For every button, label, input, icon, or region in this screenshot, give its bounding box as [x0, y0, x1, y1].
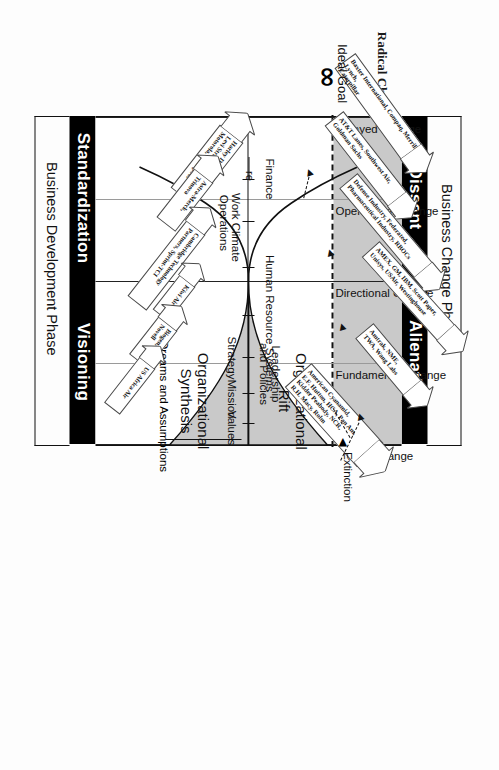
stage-finance: Finance	[263, 151, 275, 207]
business-change-cycle-figure: Figure 1 Radical Change and the Business…	[0, 0, 499, 770]
stage-tick-5	[242, 357, 254, 358]
banner-visioning: Visioning	[69, 280, 95, 444]
extinction-label: Extinction	[341, 452, 353, 502]
stage-tick-4	[242, 315, 254, 316]
stage-tick-7	[242, 423, 254, 424]
stage-work-climate: Work Climate	[229, 193, 241, 253]
structure-leader-line	[248, 157, 249, 179]
scanned-figure-page: Figure 1 Radical Change and the Business…	[0, 0, 499, 770]
change-cycle-plot: Delayed Change Operational Change Direct…	[95, 116, 401, 446]
stage-tick-3	[242, 267, 254, 268]
stage-leadership-and-policies: Leadership and Policies	[257, 339, 281, 409]
infinity-icon: ∞	[315, 66, 339, 89]
extinction-arrow-icon: ◀	[336, 438, 349, 446]
stage-tick-6	[242, 393, 254, 394]
business-development-phase-label: Business Development Phase	[43, 158, 59, 359]
stage-tick-2	[242, 221, 254, 222]
stage-values: Values	[225, 405, 237, 451]
banner-standardization: Standardization	[69, 116, 95, 280]
region-organizational-synthesis: Organizational Synthesis	[177, 349, 211, 453]
dreams-leader-line	[165, 439, 241, 440]
